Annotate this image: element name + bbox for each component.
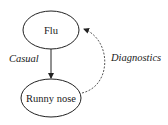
edge-diagnostics-arrow <box>82 29 105 93</box>
edge-diagnostics-label: Diagnostics <box>110 52 161 63</box>
node-runny-nose: Runny nose <box>21 79 81 117</box>
edge-causal-label: Casual <box>9 53 39 64</box>
edge-causal: Casual <box>9 49 51 78</box>
node-flu-label: Flu <box>44 25 59 36</box>
node-runny-nose-label: Runny nose <box>26 93 76 104</box>
causal-diagnostic-diagram: Flu Runny nose Casual Diagnostics <box>0 0 168 125</box>
node-flu: Flu <box>23 11 79 49</box>
edge-diagnostics: Diagnostics <box>82 29 161 93</box>
